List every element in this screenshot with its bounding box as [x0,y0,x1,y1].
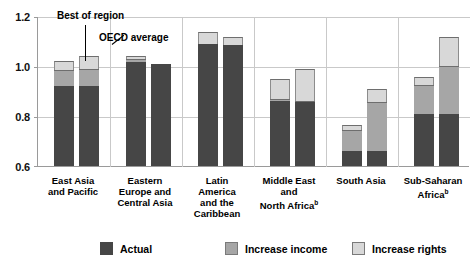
y-tick-mark-0-8 [34,117,38,118]
bar-east-asia-and-pacific-oecd-average [79,56,99,166]
category-label-eastern-europe-and-central-asia: Eastern Europe and Central Asia [109,175,181,208]
bar-segment-actual [198,44,218,167]
bar-segment-actual [439,114,459,167]
bar-south-asia-best-of-region [342,125,362,166]
category-label-south-asia: South Asia [325,175,397,186]
bar-segment-increase-rights [54,61,74,70]
bar-segment-actual [79,86,99,166]
legend-item-increase-income: Increase income [225,242,327,255]
y-tick-label-0-6: 0.6 [0,161,30,173]
y-tick-label-0-8: 0.8 [0,111,30,123]
cat-line-3: and the [181,197,253,208]
bar-middle-east-and-north-africa-oecd-average [295,69,315,166]
legend-item-increase-rights: Increase rights [352,242,447,255]
cat-line-2: Africab [397,186,469,200]
cat-line-1: East Asia [37,175,109,186]
legend-swatch-increase-rights [352,242,365,255]
bar-segment-increase-income [54,70,74,86]
bar-segment-actual [342,151,362,166]
cat-line-3-text: North Africa [260,200,315,211]
bar-segment-increase-rights [223,37,243,45]
legend-label-increase-income: Increase income [245,243,327,255]
bar-segment-increase-rights [439,37,459,66]
footnote-marker-b: b [444,188,448,195]
y-tick-mark-0-6 [34,166,38,167]
bar-segment-increase-income [79,69,99,87]
y-tick-mark-1-0 [34,67,38,68]
bar-segment-actual [295,102,315,166]
annotation-oecd-average: OECD average [99,32,168,43]
footnote-marker-b: b [314,199,318,206]
best-of-region-leader-line [85,25,86,61]
group-separator-2 [182,17,183,167]
annotation-best-of-region: Best of region [57,10,124,21]
category-label-latin-america-and-the-caribbean: Latin America and the Caribbean [181,175,253,219]
bar-middle-east-and-north-africa-best-of-region [270,79,290,167]
cat-line-3: Central Asia [109,197,181,208]
cat-line-2: and [253,186,325,197]
bar-segment-actual [270,101,290,166]
bar-segment-actual [414,114,434,167]
y-tick-label-1-2: 1.2 [0,11,30,23]
bar-south-asia-oecd-average [367,89,387,167]
cat-line-1: Sub-Saharan [397,175,469,186]
y-tick-mark-1-2 [34,17,38,18]
bar-segment-actual [151,64,171,167]
bar-east-asia-and-pacific-best-of-region [54,61,74,166]
bar-segment-increase-rights [414,77,434,85]
bar-segment-actual [54,86,74,166]
category-label-east-asia-and-pacific: East Asia and Pacific [37,175,109,197]
bar-latin-america-and-the-caribbean-oecd-average [223,37,243,166]
bar-eastern-europe-and-central-asia-oecd-average [151,64,171,167]
chart-legend: Actual Increase income Increase rights [0,240,476,262]
bar-sub-saharan-africa-oecd-average [439,37,459,166]
legend-item-actual: Actual [100,242,152,255]
category-label-sub-saharan-africa: Sub-Saharan Africab [397,175,469,200]
cat-line-2: America [181,186,253,197]
bar-segment-increase-rights [367,89,387,103]
cat-line-1: South Asia [325,175,397,186]
cat-line-1: Eastern [109,175,181,186]
cat-line-4: Caribbean [181,208,253,219]
legend-swatch-increase-income [225,242,238,255]
category-label-middle-east-and-north-africa: Middle East and North Africab [253,175,325,211]
legend-label-actual: Actual [120,243,152,255]
bar-segment-increase-rights [198,32,218,43]
bar-segment-actual [367,151,387,166]
bar-segment-actual [126,62,146,166]
chart-figure: 1.2 1.0 0.8 0.6 Best of region OECD aver… [0,0,476,275]
bar-segment-increase-income [414,85,434,114]
bar-segment-actual [223,45,243,166]
bar-segment-increase-rights [270,79,290,99]
bar-sub-saharan-africa-best-of-region [414,77,434,166]
legend-label-increase-rights: Increase rights [372,243,447,255]
group-separator-4 [326,17,327,167]
cat-line-2: Europe and [109,186,181,197]
cat-line-2: and Pacific [37,186,109,197]
bar-segment-increase-income [439,66,459,114]
bar-eastern-europe-and-central-asia-best-of-region [126,56,146,166]
bar-segment-increase-income [367,102,387,151]
group-separator-5 [398,17,399,167]
bar-segment-increase-rights [295,69,315,101]
bar-segment-increase-income [342,130,362,151]
cat-line-3: North Africab [253,197,325,211]
bar-latin-america-and-the-caribbean-best-of-region [198,32,218,166]
cat-line-1: Middle East [253,175,325,186]
group-separator-3 [254,17,255,167]
cat-line-1: Latin [181,175,253,186]
y-tick-label-1-0: 1.0 [0,61,30,73]
bar-segment-increase-rights [79,56,99,69]
legend-swatch-actual [100,242,113,255]
cat-line-2-text: Africa [418,189,445,200]
